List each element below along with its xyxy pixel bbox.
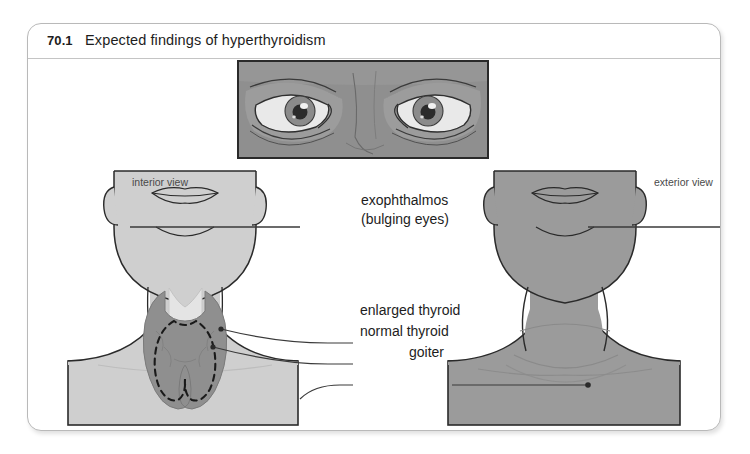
enlarged-thyroid-label: enlarged thyroid — [360, 302, 460, 318]
figure-number: 70.1 — [47, 33, 73, 48]
leader-goiter-left-tick — [300, 385, 353, 399]
interior-view-label: interior view — [132, 176, 188, 188]
interior-view-figure — [68, 171, 298, 425]
figure-page: 70.1 Expected findings of hyperthyroidis… — [0, 0, 750, 454]
leader-enlarged-thyroid — [221, 329, 353, 343]
exterior-view-figure — [448, 171, 680, 425]
figure-title: Expected findings of hyperthyroidism — [85, 32, 326, 48]
exterior-view-label: exterior view — [654, 176, 713, 188]
eye-panel-group — [238, 61, 488, 158]
exophthalmos-label-line2: (bulging eyes) — [361, 211, 449, 227]
figure-caption: 70.1 Expected findings of hyperthyroidis… — [47, 32, 326, 48]
exophthalmos-label-line1: exophthalmos — [361, 192, 448, 208]
figure-box: 70.1 Expected findings of hyperthyroidis… — [27, 23, 721, 431]
normal-thyroid-label: normal thyroid — [360, 323, 449, 339]
figure-caption-bar: 70.1 Expected findings of hyperthyroidis… — [28, 24, 720, 59]
figure-canvas — [28, 59, 720, 430]
goiter-label: goiter — [360, 344, 444, 360]
